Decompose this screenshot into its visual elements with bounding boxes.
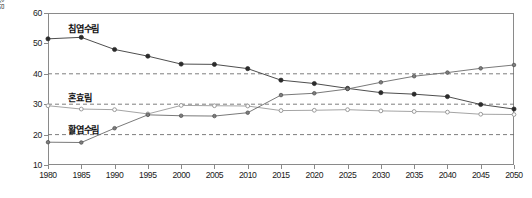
data-point xyxy=(79,107,83,111)
data-point xyxy=(212,62,216,66)
data-point xyxy=(346,108,350,112)
series-label-1: 혼효림 xyxy=(68,90,91,104)
data-point xyxy=(445,95,449,99)
data-point xyxy=(246,67,250,71)
data-point xyxy=(279,78,283,82)
data-point xyxy=(112,47,116,51)
data-point xyxy=(512,63,516,67)
data-point xyxy=(46,140,50,144)
series-line xyxy=(48,65,514,143)
data-point xyxy=(379,109,383,113)
data-point xyxy=(446,110,450,114)
forest-type-ratio-chart: 임상비율(%) 102030405060 1980198519901995200… xyxy=(0,0,532,198)
data-point xyxy=(179,104,183,108)
data-point xyxy=(113,126,117,130)
data-point xyxy=(179,114,183,118)
data-point xyxy=(479,102,483,106)
data-point xyxy=(146,113,150,117)
data-point xyxy=(179,62,183,66)
data-point xyxy=(346,87,350,91)
data-point xyxy=(312,108,316,112)
data-point xyxy=(279,93,283,97)
series-label-2: 활엽수림 xyxy=(68,122,99,136)
data-point xyxy=(479,112,483,116)
data-point xyxy=(246,111,250,115)
data-point xyxy=(512,113,516,117)
data-point xyxy=(479,67,483,71)
series-label-0: 침엽수림 xyxy=(68,21,99,35)
data-point xyxy=(379,81,383,85)
data-point xyxy=(146,54,150,58)
data-point xyxy=(213,114,217,118)
data-point xyxy=(312,91,316,95)
data-point xyxy=(279,109,283,113)
data-point xyxy=(213,104,217,108)
data-point xyxy=(412,92,416,96)
data-point xyxy=(412,74,416,78)
data-point xyxy=(512,107,516,111)
data-point xyxy=(46,37,50,41)
data-point xyxy=(246,104,250,108)
data-point xyxy=(379,91,383,95)
data-point xyxy=(79,35,83,39)
data-point xyxy=(113,108,117,112)
data-point xyxy=(446,71,450,75)
data-point xyxy=(46,104,50,108)
data-point xyxy=(412,110,416,114)
data-point xyxy=(79,141,83,145)
data-point xyxy=(312,81,316,85)
